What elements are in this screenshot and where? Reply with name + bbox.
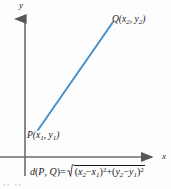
formula-point-q: Q	[49, 166, 56, 177]
coordinate-plane-graphic	[0, 0, 171, 189]
caption-sliver: •• ••	[3, 182, 23, 188]
segment-pq	[38, 22, 113, 130]
point-p-suffix: )	[56, 130, 59, 140]
point-q-suffix: )	[142, 14, 145, 24]
radicand: (x2−x1)2+(y2−y1)2	[74, 165, 145, 179]
point-p-prefix: P(	[27, 130, 36, 140]
square-root-expression: (x2−x1)2+(y2−y1)2	[67, 165, 145, 179]
point-q-prefix: Q(	[112, 14, 122, 24]
x-axis-label: x	[162, 152, 166, 161]
distance-formula: d(P, Q)=(x2−x1)2+(y2−y1)2	[30, 165, 145, 179]
point-label-q: Q(x2, y2)	[112, 15, 145, 26]
formula-equals: =	[60, 166, 66, 177]
radical-sign-icon	[67, 164, 74, 177]
point-label-p: P(x1, y1)	[27, 131, 59, 142]
term2-exponent: 2	[140, 166, 144, 174]
y-axis-label: y	[19, 1, 23, 10]
distance-formula-figure: y x Q(x2, y2) P(x1, y1) d(P, Q)=(x2−x1)2…	[0, 0, 171, 189]
